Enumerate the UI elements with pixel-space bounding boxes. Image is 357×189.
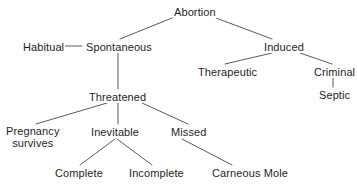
node-abortion: Abortion <box>173 6 217 18</box>
node-threatened-line-1: Threatened <box>89 91 146 103</box>
node-pregnancy: Pregnancysurvives <box>5 126 61 149</box>
node-carneous_mole-line-1: Carneous Mole <box>212 167 288 179</box>
edge-threatened-to-pregnancy <box>36 103 107 124</box>
node-incomplete-line-1: Incomplete <box>129 167 184 179</box>
edge-missed-to-carneous_mole <box>182 139 232 165</box>
node-missed-line-1: Missed <box>171 126 206 138</box>
abortion-classification-diagram: AbortionHabitualSpontaneousInducedTherap… <box>0 0 357 189</box>
edge-induced-to-therapeutic <box>225 53 272 64</box>
node-induced: Induced <box>263 41 305 53</box>
node-complete: Complete <box>54 167 104 179</box>
edge-abortion-to-spontaneous <box>120 18 172 39</box>
edge-inevitable-to-incomplete <box>117 139 152 165</box>
node-criminal-line-1: Criminal <box>314 66 355 78</box>
node-incomplete: Incomplete <box>128 167 185 179</box>
node-missed: Missed <box>170 126 207 138</box>
node-inevitable-line-1: Inevitable <box>91 126 139 138</box>
node-septic: Septic <box>318 89 351 101</box>
node-complete-line-1: Complete <box>55 167 103 179</box>
node-abortion-line-1: Abortion <box>174 6 216 18</box>
node-threatened: Threatened <box>88 91 147 103</box>
node-pregnancy-line-1: Pregnancy <box>6 125 60 137</box>
node-criminal: Criminal <box>313 66 356 78</box>
node-pregnancy-line-2: survives <box>6 138 60 150</box>
edge-layer <box>0 0 357 189</box>
node-spontaneous: Spontaneous <box>85 41 153 53</box>
node-induced-line-1: Induced <box>264 41 304 53</box>
node-therapeutic: Therapeutic <box>197 66 258 78</box>
node-spontaneous-line-1: Spontaneous <box>86 41 152 53</box>
edge-threatened-to-missed <box>142 103 188 124</box>
node-carneous_mole: Carneous Mole <box>211 167 289 179</box>
edge-induced-to-criminal <box>300 53 332 64</box>
edge-abortion-to-induced <box>216 18 272 39</box>
node-habitual-line-1: Habitual <box>23 41 64 53</box>
node-therapeutic-line-1: Therapeutic <box>198 66 257 78</box>
node-habitual: Habitual <box>22 41 65 53</box>
edge-inevitable-to-complete <box>80 139 115 165</box>
node-septic-line-1: Septic <box>319 89 350 101</box>
node-inevitable: Inevitable <box>90 126 140 138</box>
